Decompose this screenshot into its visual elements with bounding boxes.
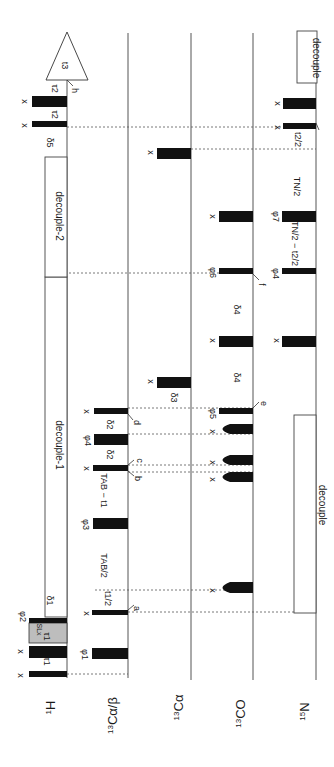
- alignment-lines: [45, 127, 316, 674]
- delay-t1-half: t1/2: [103, 591, 112, 606]
- delay-label-delta3: δ3: [169, 392, 178, 402]
- marker-h: h: [70, 88, 79, 93]
- channel-label-13CO: 13CO: [233, 699, 248, 727]
- delay-TAB-minus-t1-half: TAB − t1: [99, 473, 108, 508]
- decouple-15N-acq-label: decouple: [311, 38, 321, 79]
- phase-label: x: [82, 466, 91, 471]
- pulse-13CO-phi5: [219, 408, 253, 414]
- marker-ticks: [67, 80, 319, 610]
- phase-label-phi7: φ7: [271, 211, 280, 222]
- pulse-15N-phi4: [282, 268, 316, 274]
- delay-TN-minus-t2: TN/2 − t2/2: [290, 221, 299, 266]
- pulse-1H-phi2: [29, 618, 67, 623]
- decouple-1-label: decouple-1: [54, 420, 64, 469]
- pulse-15N-x-1: [282, 336, 316, 347]
- phase-label: x: [208, 460, 217, 465]
- delay-label-tau1: τ1: [42, 632, 51, 641]
- channel-13CO: [219, 211, 253, 593]
- channel-15N: [282, 31, 317, 613]
- phase-label: x: [82, 409, 91, 414]
- pulse-15N-x-3: [283, 98, 316, 109]
- phase-label: x: [273, 101, 282, 106]
- marker-a: a: [132, 606, 141, 611]
- phase-label: x: [146, 379, 155, 384]
- phase-label-phi1: φ1: [80, 649, 89, 660]
- shaped-pulse-13CO-1: [223, 582, 254, 593]
- channel-label-1H: 1H: [43, 701, 58, 715]
- phase-label: x: [208, 214, 217, 219]
- pulse-13Cab-x-bc: [93, 465, 128, 471]
- phase-label-phi2: φ2: [18, 611, 27, 622]
- channel-13Cab: [92, 408, 128, 659]
- marker-e: e: [259, 401, 268, 406]
- delay-label-delta4: δ4: [232, 372, 241, 382]
- channel-13Ca: [157, 148, 191, 388]
- delay-label-delta5: δ5: [45, 137, 54, 147]
- marker-c: c: [135, 458, 144, 463]
- phase-label: x: [208, 588, 217, 593]
- pulse-13Cab-phi4: [94, 434, 128, 445]
- spinlock-label: SLx: [36, 623, 43, 635]
- channel-label-13Ca: 13Cα: [171, 695, 186, 721]
- pulse-13Ca-1: [157, 377, 191, 388]
- pulse-1H-4: [32, 96, 67, 107]
- delay-label-tau1: τ1: [42, 657, 51, 666]
- channel-label-13Cab: 13Cα/β: [105, 697, 120, 734]
- pulse-1H-1: [29, 671, 67, 677]
- pulse-13CO-x-1: [219, 336, 253, 347]
- decouple-15N-label: decouple: [317, 485, 327, 526]
- shaped-pulse-13CO-2: [223, 472, 254, 482]
- phase-label: x: [82, 611, 91, 616]
- decouple-2-label: decouple-2: [54, 191, 64, 240]
- pulse-13Cab-phi1: [92, 648, 128, 659]
- phase-label: x: [20, 99, 29, 104]
- delay-label-tau2: τ2: [50, 110, 59, 119]
- shaped-pulse-13CO-3: [223, 455, 254, 465]
- phase-label: x: [146, 150, 155, 155]
- phase-label: x: [208, 338, 217, 343]
- delay-label-delta1: δ1: [45, 595, 54, 605]
- delay-TN-half: TN/2: [292, 177, 301, 197]
- phase-label-phi5: φ5: [208, 408, 217, 419]
- acquisition-label-t3: t3: [60, 62, 69, 70]
- phase-label: x: [16, 649, 25, 654]
- phase-label: x: [16, 673, 25, 678]
- phase-label-phi4: φ4: [83, 435, 92, 446]
- pulse-13Ca-2: [157, 148, 191, 159]
- acquisition-fid: [46, 32, 88, 80]
- delay-label-tau2: τ2: [50, 84, 59, 93]
- phase-label: x: [273, 125, 282, 130]
- phase-label: x: [20, 123, 29, 128]
- channel-label-15N: 15N: [297, 702, 312, 720]
- phase-label-phi3: φ3: [81, 519, 90, 530]
- delay-label-delta2: δ2: [105, 419, 114, 429]
- delay-t2-half: t2/2: [293, 132, 302, 147]
- phase-label-phi6: φ6: [208, 267, 217, 278]
- phase-label-phi4: φ4: [271, 268, 280, 279]
- shaped-pulse-13CO-4: [223, 424, 254, 434]
- delay-label-delta2: δ2: [105, 449, 114, 459]
- pulse-15N-x-2: [283, 123, 316, 129]
- delay-label-delta4: δ4: [232, 304, 241, 314]
- phase-label: x: [208, 477, 217, 482]
- marker-d: d: [132, 420, 141, 425]
- pulse-13CO-x-2: [219, 211, 253, 222]
- channel-1H: [29, 32, 88, 677]
- delay-TAB-half: TAB/2: [99, 553, 108, 577]
- decouple-15N-box: [294, 415, 316, 613]
- marker-f: f: [257, 283, 266, 286]
- pulse-13Cab-x-a: [92, 610, 128, 615]
- pulse-1H-2: [29, 646, 67, 658]
- phase-label: x: [208, 429, 217, 434]
- phase-label: x: [272, 338, 281, 343]
- pulse-13Cab-x-d: [94, 408, 128, 414]
- pulse-sequence-diagram: x x τ1 τ1 SLx φ2 δ1 decouple-1 decouple-…: [0, 0, 334, 767]
- pulse-13CO-phi6: [219, 268, 253, 274]
- pulse-13Cab-phi3: [93, 518, 128, 529]
- pulse-1H-3: [32, 121, 67, 127]
- marker-b: b: [133, 476, 142, 481]
